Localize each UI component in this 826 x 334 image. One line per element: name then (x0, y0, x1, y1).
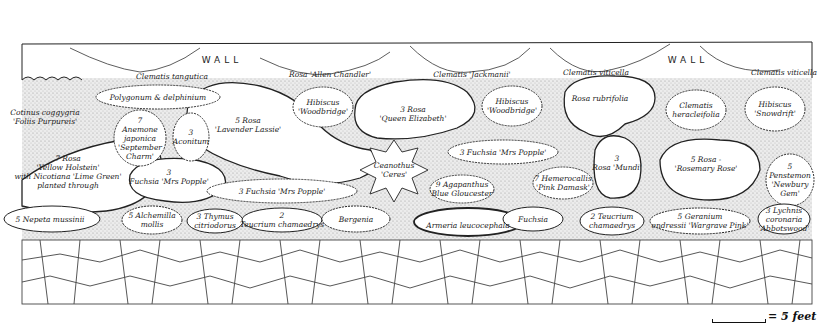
plant-label-clematis-viticella-1: Clematis viticella (563, 68, 629, 77)
plant-label-line: Polygonum & delphinium (110, 93, 206, 102)
plant-label-line: 'Blue Gloucester' (430, 189, 495, 198)
plant-label-armeria: Armeria leucocephala (426, 221, 509, 230)
plant-label-cotinus: Cotinus coggygria'Foliis Purpureis' (10, 108, 79, 126)
plant-label-line: 2 Teucrium (589, 212, 635, 221)
plant-label-line: chamaedrys (589, 221, 635, 230)
plant-label-hibiscus-woodbridge-2: Hibiscus'Woodbridge' (487, 97, 537, 115)
plant-label-line: 7 Hemerocallis (534, 174, 592, 183)
plant-label-alchemilla: 5 Alchemillamollis (128, 211, 175, 229)
plant-label-line: 5 Rosa (215, 116, 281, 125)
plant-label-aconitum: 3Aconitum (173, 128, 209, 146)
plant-label-rosa-lavender: 5 Rosa'Lavender Lassie' (215, 116, 281, 134)
plant-label-hibiscus-woodbridge-1: Hibiscus'Woodbridge' (298, 98, 348, 116)
plant-label-line: 'Lavender Lassie' (215, 125, 281, 134)
plant-label-line: Rosa 'Mundi' (592, 163, 642, 172)
plant-label-line: Fuchsia (518, 215, 548, 224)
plant-label-line: 7 Rosa (14, 154, 121, 163)
plant-label-fuchsia-popple-3: 3 Fuchsia 'Mrs Popple' (460, 148, 547, 157)
plant-label-line: Clematis tangutica (136, 72, 208, 81)
plant-label-line: 'Queen Elizabeth' (380, 114, 447, 123)
plant-label-line: 'Woodbridge' (298, 107, 348, 116)
plant-label-line: mollis (128, 220, 175, 229)
plant-label-nepeta: 5 Nepeta mussinii (16, 215, 85, 224)
plant-label-ceanothus: Ceanothus'Ceres' (374, 161, 415, 179)
plant-label-line: Clematis viticella (563, 68, 629, 77)
plant-label-line: citriodorus (194, 221, 236, 230)
plant-label-line: Ceanothus (374, 161, 415, 170)
wall-label-right: WALL (668, 55, 709, 65)
plant-label-line: 9 Agapanthus (430, 180, 495, 189)
plant-label-geranium: 5 Geraniumendressii 'Wargrave Pink' (652, 212, 749, 230)
plant-label-line: 3 Fuchsia 'Mrs Popple' (460, 148, 547, 157)
plant-label-rosa-mundi: 3Rosa 'Mundi' (592, 154, 642, 172)
plant-label-line: 'Snowdrift' (754, 109, 796, 118)
plant-label-line: 5 Alchemilla (128, 211, 175, 220)
plant-label-fuchsia-popple-1: 3Fuchsia 'Mrs Popple' (129, 168, 209, 186)
plant-label-line: 'Newbury (769, 180, 811, 189)
plant-label-line: Hibiscus (298, 98, 348, 107)
plant-label-line: 'Rosemary Rose' (675, 164, 738, 173)
plant-label-lychnis: 3 Lychniscoronaria'Abbotswood' (759, 206, 810, 233)
plant-label-fuchsia-front: Fuchsia (518, 215, 548, 224)
plant-label-agapanthus: 9 Agapanthus'Blue Gloucester' (430, 180, 495, 198)
plant-label-line: Rosa rubrifolia (572, 94, 629, 103)
wall-label-left: WALL (202, 55, 243, 65)
plant-label-thymus: 3 Thymuscitriodorus (194, 212, 236, 230)
plant-label-line: Rosa 'Allen Chandler' (289, 70, 371, 79)
plant-label-rosa-yellow-holstein: 7 Rosa'Yellow Holstein'with Nicotiana 'L… (14, 154, 121, 190)
plant-label-line: Teucrium chamaedrys (240, 220, 324, 229)
plant-label-line: Clematis 'Jackmanii' (433, 70, 510, 79)
plant-label-line: Anemone (118, 125, 162, 134)
plant-label-line: heracleifolia (672, 110, 719, 119)
plant-label-line: Bergenia (339, 215, 373, 224)
plant-label-hemerocallis: 7 Hemerocallis'Pink Damask' (534, 174, 592, 192)
plant-label-rosa-allen-chandler: Rosa 'Allen Chandler' (289, 70, 371, 79)
plant-label-line: 3 Rosa (380, 105, 447, 114)
plant-label-line: 3 (129, 168, 209, 177)
plant-label-line: 3 Lychnis (759, 206, 810, 215)
plant-label-line: Clematis (672, 101, 719, 110)
plant-label-line: Aconitum (173, 137, 209, 146)
plant-label-line: Fuchsia 'Mrs Popple' (129, 177, 209, 186)
plant-label-line: 3 (173, 128, 209, 137)
plant-label-teucrium-2: 2 Teucriumchamaedrys (589, 212, 635, 230)
plant-label-line: 3 Thymus (194, 212, 236, 221)
plant-label-line: 'September (118, 143, 162, 152)
plant-label-line: Gem' (769, 189, 811, 198)
plant-label-line: with Nicotiana 'Lime Green' (14, 172, 121, 181)
plant-label-line: Cotinus coggygria (10, 108, 79, 117)
plant-label-line: endressii 'Wargrave Pink' (652, 221, 749, 230)
plant-label-rosa-rubrifolia: Rosa rubrifolia (572, 94, 629, 103)
plant-label-line: japonica (118, 134, 162, 143)
plant-label-clematis-viticella-2: Clematis viticella (751, 68, 817, 77)
plant-label-anemone: 7Anemonejaponica'SeptemberCharm' (118, 116, 162, 161)
paving-stones (22, 240, 812, 304)
scale-label: = 5 feet (768, 310, 816, 323)
plant-label-line: Clematis viticella (751, 68, 817, 77)
plant-label-line: 'Woodbridge' (487, 106, 537, 115)
plant-label-line: 'Abbotswood' (759, 224, 810, 233)
plant-label-line: Armeria leucocephala (426, 221, 509, 230)
plant-label-fuchsia-popple-2: 3 Fuchsia 'Mrs Popple' (239, 187, 326, 196)
plant-label-polygonum: Polygonum & delphinium (110, 93, 206, 102)
plant-label-line: 'Ceres' (374, 170, 415, 179)
plant-label-clematis-jackmanii: Clematis 'Jackmanii' (433, 70, 510, 79)
plant-label-line: Penstemon (769, 171, 811, 180)
plant-label-line: 5 Rosa - (675, 155, 738, 164)
plant-label-line: Hibiscus (487, 97, 537, 106)
plant-label-rosa-queen: 3 Rosa'Queen Elizabeth' (380, 105, 447, 123)
plant-label-line: 3 (592, 154, 642, 163)
scale-bar (712, 319, 766, 323)
plant-label-teucrium-1: 2Teucrium chamaedrys (240, 211, 324, 229)
plant-label-bergenia: Bergenia (339, 215, 373, 224)
plant-label-penstemon: 5Penstemon'NewburyGem' (769, 162, 811, 198)
plant-label-line: 5 Nepeta mussinii (16, 215, 85, 224)
plant-label-hibiscus-snowdrift: Hibiscus'Snowdrift' (754, 100, 796, 118)
plant-label-line: 'Yellow Holstein' (14, 163, 121, 172)
plant-label-rosa-rosemary: 5 Rosa -'Rosemary Rose' (675, 155, 738, 173)
plant-label-clematis-tangutica: Clematis tangutica (136, 72, 208, 81)
plant-label-line: 'Foliis Purpureis' (10, 117, 79, 126)
plant-label-line: 5 Geranium (652, 212, 749, 221)
plant-label-line: planted through (14, 181, 121, 190)
plant-label-clematis-heracleifolia: Clematisheracleifolia (672, 101, 719, 119)
